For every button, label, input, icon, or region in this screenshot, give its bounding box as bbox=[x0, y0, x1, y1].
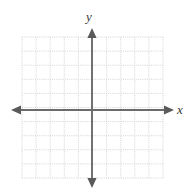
x-axis-left-arrowhead bbox=[11, 105, 21, 114]
x-axis-label: x bbox=[177, 103, 183, 116]
x-axis-right-arrowhead bbox=[164, 105, 174, 114]
coordinate-plane-figure: y x bbox=[0, 0, 194, 194]
y-axis-label: y bbox=[86, 10, 92, 23]
y-axis-bottom-arrowhead bbox=[87, 178, 96, 188]
coordinate-plane-svg bbox=[0, 0, 194, 194]
y-axis-top-arrowhead bbox=[87, 28, 96, 38]
